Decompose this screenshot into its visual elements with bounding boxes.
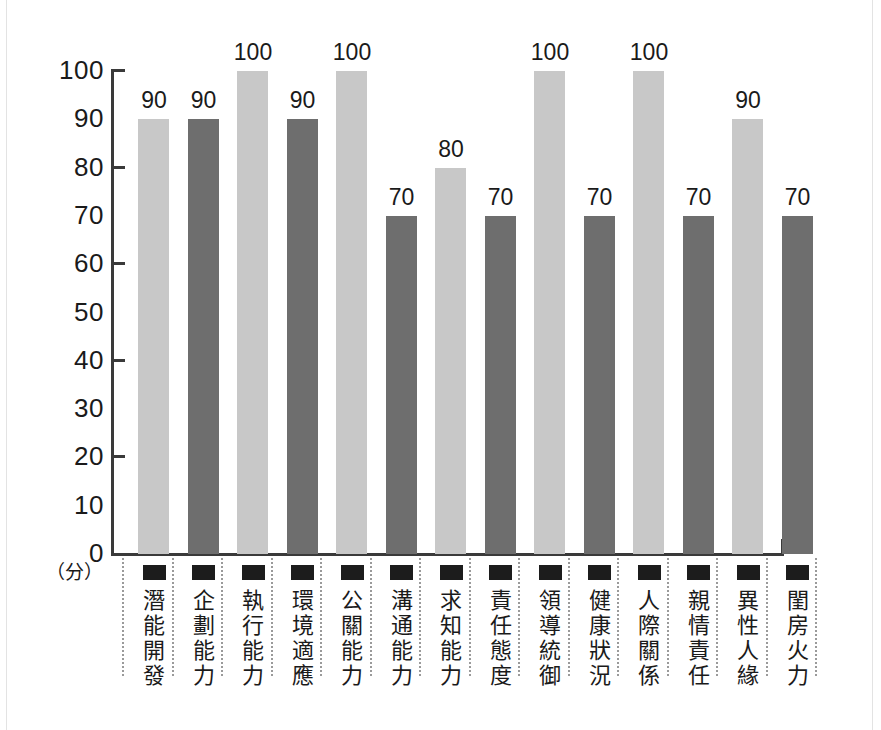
category-label-char: 閨 bbox=[772, 588, 824, 613]
bar-column[interactable]: 100 bbox=[237, 70, 268, 554]
bar-chart: 1009080706050403020100 （分） 9090100901007… bbox=[0, 0, 881, 730]
bar[interactable] bbox=[188, 119, 219, 554]
category-label-char: 能 bbox=[128, 613, 180, 638]
chart-page: 1009080706050403020100 （分） 9090100901007… bbox=[0, 0, 881, 730]
category-separator bbox=[122, 558, 125, 676]
category-label[interactable]: 企劃能力 bbox=[178, 565, 230, 688]
bar[interactable] bbox=[584, 216, 615, 554]
category-label-char: 能 bbox=[227, 638, 279, 663]
bar[interactable] bbox=[534, 71, 565, 554]
bar[interactable] bbox=[782, 216, 813, 554]
bar[interactable] bbox=[386, 216, 417, 554]
category-label-char: 力 bbox=[178, 663, 230, 688]
y-axis-tick-label: 30 bbox=[0, 395, 104, 421]
category-label-text: 領導統御 bbox=[524, 588, 576, 688]
bar-column[interactable]: 100 bbox=[534, 70, 565, 554]
category-label-text: 健康狀況 bbox=[574, 588, 626, 688]
category-label-char: 任 bbox=[673, 663, 725, 688]
category-label[interactable]: 異性人緣 bbox=[722, 565, 774, 688]
category-label[interactable]: 潛能開發 bbox=[128, 565, 180, 688]
category-label-text: 親情責任 bbox=[673, 588, 725, 688]
category-label[interactable]: 溝通能力 bbox=[376, 565, 428, 688]
bar-value-label: 70 bbox=[372, 185, 432, 209]
y-axis-tick-label: 10 bbox=[0, 492, 104, 518]
category-label-char: 知 bbox=[425, 613, 477, 638]
bar-value-label: 70 bbox=[669, 185, 729, 209]
bar[interactable] bbox=[237, 71, 268, 554]
filled-square-marker-icon bbox=[588, 565, 611, 580]
category-label[interactable]: 執行能力 bbox=[227, 565, 279, 688]
category-label[interactable]: 公關能力 bbox=[326, 565, 378, 688]
y-axis-tick bbox=[111, 69, 125, 72]
bar[interactable] bbox=[683, 216, 714, 554]
category-label-char: 公 bbox=[326, 588, 378, 613]
category-label-char: 潛 bbox=[128, 588, 180, 613]
category-label-text: 求知能力 bbox=[425, 588, 477, 688]
category-label-char: 度 bbox=[475, 663, 527, 688]
bar[interactable] bbox=[138, 119, 169, 554]
bar-column[interactable]: 70 bbox=[782, 70, 813, 554]
y-axis-unit-label: （分） bbox=[46, 562, 103, 584]
bar-column[interactable]: 100 bbox=[633, 70, 664, 554]
category-label[interactable]: 環境適應 bbox=[277, 565, 329, 688]
filled-square-marker-icon bbox=[143, 565, 166, 580]
category-label-char: 異 bbox=[722, 588, 774, 613]
category-label-char: 責 bbox=[475, 588, 527, 613]
category-label[interactable]: 閨房火力 bbox=[772, 565, 824, 688]
category-label-char: 情 bbox=[673, 613, 725, 638]
filled-square-marker-icon bbox=[737, 565, 760, 580]
bar-column[interactable]: 100 bbox=[336, 70, 367, 554]
bar-value-label: 70 bbox=[471, 185, 531, 209]
bar-column[interactable]: 90 bbox=[732, 70, 763, 554]
category-label-char: 能 bbox=[425, 638, 477, 663]
bar-column[interactable]: 90 bbox=[188, 70, 219, 554]
bar[interactable] bbox=[732, 119, 763, 554]
category-label-char: 通 bbox=[376, 613, 428, 638]
category-label-char: 關 bbox=[326, 613, 378, 638]
y-axis-tick-label-text: 20 bbox=[0, 443, 104, 469]
bar-value-label: 70 bbox=[768, 185, 828, 209]
bar-column[interactable]: 80 bbox=[435, 70, 466, 554]
bar-value-label: 70 bbox=[570, 185, 630, 209]
bar-column[interactable]: 70 bbox=[386, 70, 417, 554]
bar-column[interactable]: 90 bbox=[138, 70, 169, 554]
category-label-char: 際 bbox=[623, 613, 675, 638]
category-label[interactable]: 健康狀況 bbox=[574, 565, 626, 688]
category-label-char: 態 bbox=[475, 638, 527, 663]
y-axis-tick-label: 70 bbox=[0, 202, 104, 228]
category-label-char: 緣 bbox=[722, 663, 774, 688]
category-label-text: 異性人緣 bbox=[722, 588, 774, 688]
y-axis-tick bbox=[111, 359, 125, 362]
category-label-char: 能 bbox=[376, 638, 428, 663]
bar-value-label: 80 bbox=[421, 137, 481, 161]
bar-value-label: 100 bbox=[223, 40, 283, 64]
category-label[interactable]: 求知能力 bbox=[425, 565, 477, 688]
bar[interactable] bbox=[485, 216, 516, 554]
y-axis-tick-label-text: 100 bbox=[0, 57, 104, 83]
y-axis-tick-label: 50 bbox=[0, 299, 104, 325]
category-label-char: 適 bbox=[277, 638, 329, 663]
category-label-char: 應 bbox=[277, 663, 329, 688]
bar[interactable] bbox=[435, 168, 466, 554]
category-label[interactable]: 領導統御 bbox=[524, 565, 576, 688]
category-label[interactable]: 親情責任 bbox=[673, 565, 725, 688]
filled-square-marker-icon bbox=[687, 565, 710, 580]
y-axis-line bbox=[111, 70, 114, 556]
category-label-char: 執 bbox=[227, 588, 279, 613]
filled-square-marker-icon bbox=[390, 565, 413, 580]
filled-square-marker-icon bbox=[242, 565, 265, 580]
bar-column[interactable]: 90 bbox=[287, 70, 318, 554]
bar-column[interactable]: 70 bbox=[485, 70, 516, 554]
category-label[interactable]: 責任態度 bbox=[475, 565, 527, 688]
category-label-char: 況 bbox=[574, 663, 626, 688]
bar-column[interactable]: 70 bbox=[683, 70, 714, 554]
bar-column[interactable]: 70 bbox=[584, 70, 615, 554]
category-label-text: 執行能力 bbox=[227, 588, 279, 688]
bar[interactable] bbox=[287, 119, 318, 554]
category-label-char: 親 bbox=[673, 588, 725, 613]
y-axis-tick-label: 80 bbox=[0, 154, 104, 180]
bar[interactable] bbox=[336, 71, 367, 554]
bar[interactable] bbox=[633, 71, 664, 554]
category-label[interactable]: 人際關係 bbox=[623, 565, 675, 688]
y-axis-tick-label-text: 60 bbox=[0, 250, 104, 276]
